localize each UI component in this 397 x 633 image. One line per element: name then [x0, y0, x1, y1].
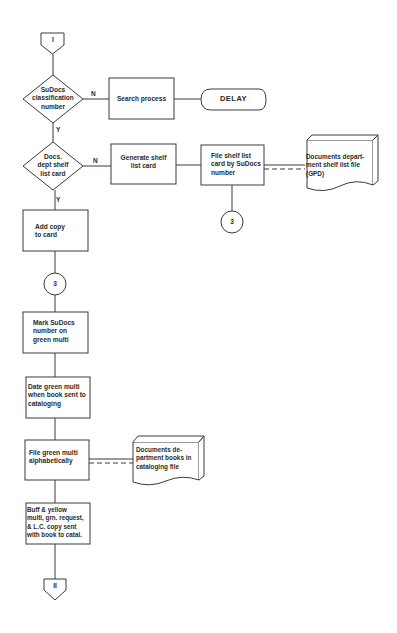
shelf-list-file-line-2: ment shelf list file [306, 161, 376, 169]
cataloging-file-line-1: Documents de- [136, 446, 202, 454]
generate-shelf-list-label: Generate shelf list card [111, 154, 176, 171]
decision-1-line-1: SuDocs [26, 86, 80, 94]
cataloging-file-label: Documents de- partment books in catalogi… [136, 446, 202, 471]
connector-end-label: II [46, 582, 64, 590]
file-green-line-2: alphabetically [29, 457, 89, 465]
date-line-2: when book sent to [28, 391, 90, 399]
buff-yellow-label: Buff & yellow multi, grn. request, & L.C… [27, 506, 91, 540]
connector-3-left-label: 3 [49, 280, 61, 288]
cataloging-file-line-2: partment books in [136, 454, 202, 462]
file-shelf-line-3: number [211, 169, 266, 177]
buff-line-4: with book to catal. [27, 531, 91, 539]
decision-1-yes-label: Y [56, 126, 60, 133]
buff-line-1: Buff & yellow [27, 506, 91, 514]
connector-3-right-label: 3 [226, 218, 238, 226]
decision-1-line-2: classification [26, 94, 80, 102]
file-shelf-line-1: File shelf list [211, 152, 266, 160]
mark-line-1: Mark SuDocs [33, 319, 88, 327]
shelf-list-file-line-1: Documents depart- [306, 153, 376, 161]
date-line-1: Date green multi [28, 383, 90, 391]
file-shelf-line-2: card by SuDocs [211, 160, 266, 168]
shelf-list-file-label: Documents depart- ment shelf list file (… [306, 153, 376, 178]
date-green-multi-label: Date green multi when book sent to catal… [28, 383, 90, 408]
add-copy-line-1: Add copy [35, 223, 85, 231]
mark-line-2: number on [33, 327, 88, 335]
decision-2-line-3: list card [26, 170, 80, 178]
decision-1-line-3: number [26, 103, 80, 111]
shelf-list-file-line-3: (GPD) [306, 170, 376, 178]
connector-start-label: I [44, 36, 62, 44]
add-copy-label: Add copy to card [35, 223, 85, 240]
decision-2-line-1: Docs. [26, 153, 80, 161]
buff-line-2: multi, grn. request, [27, 514, 91, 522]
decision-1-no-label: N [91, 90, 96, 97]
delay-label: DELAY [201, 95, 266, 103]
buff-line-3: & L.C. copy sent [27, 523, 91, 531]
search-process-label: Search process [109, 95, 174, 103]
decision-2-label: Docs. dept shelf list card [26, 153, 80, 178]
decision-1-label: SuDocs classification number [26, 86, 80, 111]
file-shelf-list-label: File shelf list card by SuDocs number [211, 152, 266, 177]
add-copy-line-2: to card [35, 231, 85, 239]
generate-line-2: list card [111, 162, 176, 170]
decision-2-line-2: dept shelf [26, 161, 80, 169]
file-green-multi-label: File green multi alphabetically [29, 449, 89, 466]
mark-sudocs-label: Mark SuDocs number on green multi [33, 319, 88, 344]
file-green-line-1: File green multi [29, 449, 89, 457]
decision-2-yes-label: Y [56, 196, 60, 203]
mark-line-3: green multi [33, 336, 88, 344]
date-line-3: cataloging [28, 400, 90, 408]
cataloging-file-line-3: cataloging file [136, 463, 202, 471]
generate-line-1: Generate shelf [111, 154, 176, 162]
decision-2-no-label: N [93, 157, 98, 164]
